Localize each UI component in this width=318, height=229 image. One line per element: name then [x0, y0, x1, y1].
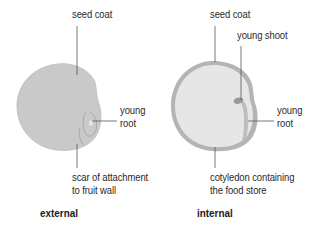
label-external-scar-2: to fruit wall [72, 184, 116, 197]
label-internal-cotyledon-1: cotyledon containing [210, 171, 294, 184]
label-internal-young-root-1: young [277, 104, 302, 117]
caption-external: external [40, 207, 78, 219]
external-seed [17, 64, 101, 151]
label-external-young-root-2: root [120, 117, 136, 130]
external-seed-body [17, 64, 101, 151]
label-internal-seed-coat: seed coat [210, 8, 250, 21]
label-internal-cotyledon-2: the food store [210, 184, 267, 197]
internal-seed [171, 61, 258, 151]
label-internal-young-shoot: young shoot [237, 29, 288, 42]
label-external-seed-coat: seed coat [72, 8, 112, 21]
label-external-scar-1: scar of attachment [72, 171, 148, 184]
seed-diagram: seed coat young root scar of attachment … [0, 0, 318, 229]
label-internal-young-root-2: root [277, 117, 293, 130]
caption-internal: internal [197, 207, 233, 219]
label-external-young-root-1: young [120, 104, 145, 117]
